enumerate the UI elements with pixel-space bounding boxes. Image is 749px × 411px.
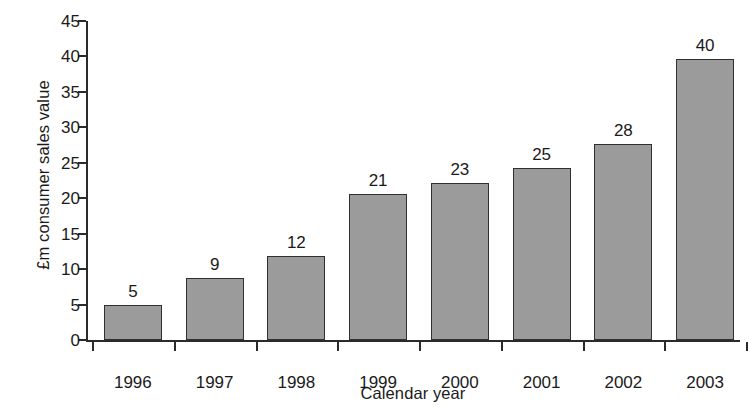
bar-value-label: 40: [696, 37, 715, 55]
y-axis-tick-label: 10: [61, 261, 80, 278]
x-axis-tick: [583, 342, 585, 351]
bar-value-label: 21: [369, 172, 388, 190]
bar: 9: [186, 278, 244, 340]
y-axis-tick-label: 20: [61, 190, 80, 207]
x-axis-tick: [501, 342, 503, 351]
plot-area: 051015202530354045 59122123252840 199619…: [86, 21, 740, 341]
y-axis-tick-label: 40: [61, 48, 80, 65]
y-axis-tick-label: 5: [71, 296, 80, 313]
bar-value-label: 9: [210, 256, 219, 274]
bar: 12: [267, 256, 325, 340]
y-axis-tick-label: 30: [61, 119, 80, 136]
x-axis-tick: [746, 342, 748, 351]
bar-value-label: 12: [287, 234, 306, 252]
bar: 28: [594, 144, 652, 340]
y-axis-title: £m consumer sales value: [30, 25, 56, 325]
bar: 23: [431, 183, 489, 340]
bar-chart: £m consumer sales value 0510152025303540…: [0, 0, 749, 411]
x-axis-title: Calendar year: [86, 383, 740, 403]
bar-value-label: 25: [532, 146, 551, 164]
bar-value-label: 23: [450, 161, 469, 179]
bar: 40: [676, 59, 734, 340]
x-axis-line: [86, 340, 740, 342]
y-axis-line: [86, 21, 88, 342]
bar: 5: [104, 305, 162, 340]
x-axis-tick: [92, 342, 94, 351]
y-axis-tick-label: 0: [71, 332, 80, 349]
bar-value-label: 28: [614, 122, 633, 140]
x-axis-tick: [256, 342, 258, 351]
x-axis-tick: [419, 342, 421, 351]
x-axis-tick: [174, 342, 176, 351]
bar: 21: [349, 194, 407, 340]
y-axis-tick-label: 25: [61, 154, 80, 171]
bar-value-label: 5: [128, 283, 137, 301]
y-axis-tick-label: 45: [61, 13, 80, 30]
y-axis-tick-label: 15: [61, 225, 80, 242]
y-axis-tick-label: 35: [61, 83, 80, 100]
bar: 25: [513, 168, 571, 340]
x-axis-tick: [337, 342, 339, 351]
x-axis-tick: [664, 342, 666, 351]
